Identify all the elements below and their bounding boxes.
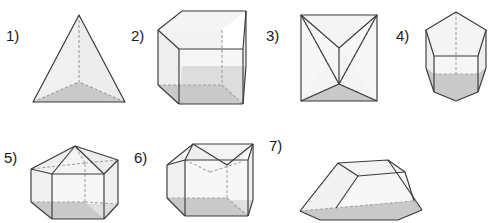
figure-label-2: 2) bbox=[131, 28, 144, 43]
figure-pentagonal-prism bbox=[420, 8, 492, 108]
figure-label-4: 4) bbox=[396, 28, 409, 43]
figure-box-with-inverted-pyramid bbox=[296, 10, 382, 106]
figure-label-6: 6) bbox=[134, 150, 147, 165]
figure-label-3: 3) bbox=[266, 28, 279, 43]
figure-label-1: 1) bbox=[6, 28, 19, 43]
figure-label-5: 5) bbox=[4, 150, 17, 165]
figure-cube bbox=[155, 8, 249, 108]
figure-label-7: 7) bbox=[269, 138, 282, 153]
figure-triangular-pyramid bbox=[28, 10, 130, 108]
worksheet-canvas: 1) 2) bbox=[0, 0, 492, 223]
figure-truncated-pyramid-frustum bbox=[290, 150, 427, 223]
figure-box-with-hip-roof bbox=[28, 130, 126, 223]
figure-box-with-indented-top bbox=[163, 130, 257, 223]
